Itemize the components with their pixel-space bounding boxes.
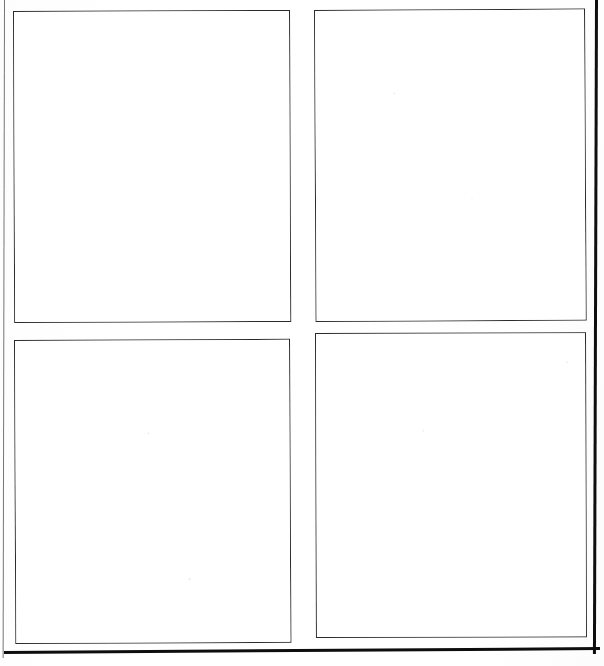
panel-bottom-right-body [316, 333, 586, 637]
panel-bottom-left [14, 339, 291, 644]
panel-top-left [13, 10, 291, 323]
panel-top-right-body [315, 10, 586, 321]
page-edge-bottom [4, 647, 600, 654]
panel-bottom-right [315, 332, 587, 638]
scanned-page [0, 0, 604, 666]
page-edge-right [593, 0, 598, 654]
panel-bottom-left-body [15, 340, 290, 643]
panel-top-left-body [14, 11, 290, 322]
page-edge-left [3, 0, 6, 658]
panel-top-right [314, 9, 587, 322]
